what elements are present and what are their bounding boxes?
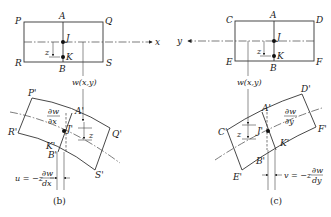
- deflection-label-c: w(x,y): [237, 78, 262, 87]
- svg-text:v = −z: v = −z: [284, 171, 312, 180]
- corner-f: F: [315, 57, 323, 67]
- corner-c-prime: C': [218, 127, 227, 137]
- caption-c: (c): [270, 196, 282, 206]
- corner-r-prime: R': [7, 127, 17, 137]
- point-a-label-c: A: [269, 10, 277, 20]
- corner-e: E: [225, 57, 233, 67]
- svg-text:dy: dy: [312, 176, 322, 185]
- deformed-bottom-edge-c: [242, 127, 316, 170]
- svg-text:∂w: ∂w: [48, 107, 59, 116]
- point-k-prime-label-c: K': [279, 138, 289, 148]
- point-a-label: A: [58, 11, 66, 21]
- corner-s: S: [106, 58, 112, 68]
- svg-text:∂w: ∂w: [312, 166, 323, 175]
- z-label-c: z: [256, 47, 262, 56]
- deformed-midplane: [10, 112, 120, 163]
- point-k-label-c: K: [276, 51, 285, 61]
- point-a-prime-label-c: A': [261, 103, 271, 113]
- point-k-c: [272, 54, 276, 58]
- caption-b: (b): [53, 196, 66, 206]
- point-a-prime-label: A': [74, 106, 84, 116]
- corner-p: P: [14, 16, 22, 26]
- svg-text:∂x: ∂x: [48, 117, 57, 126]
- corner-q: Q: [105, 16, 113, 26]
- corner-f-prime: F': [317, 124, 327, 134]
- point-b-label: B: [58, 64, 66, 74]
- svg-text:u = −z: u = −z: [15, 174, 44, 183]
- point-j-prime-label: J': [65, 124, 73, 134]
- z-label: z: [44, 48, 50, 57]
- deflection-label: w(x,y): [72, 78, 97, 87]
- point-j-prime: [62, 129, 66, 133]
- point-b-prime-label: B': [47, 150, 57, 160]
- x-axis-label: x: [155, 37, 160, 47]
- point-k-label: K: [65, 52, 74, 62]
- corner-d-prime: D': [300, 84, 311, 94]
- point-j-c: [272, 39, 276, 43]
- point-j-label-c: J: [275, 32, 282, 42]
- displacement-v-label: v = −z ∂w dy: [284, 166, 323, 185]
- plate-bending-diagram: x z P Q R S A B J K w(x,y) z: [0, 0, 331, 217]
- corner-q-prime: Q': [112, 129, 122, 139]
- corner-s-prime: S': [95, 170, 104, 180]
- slope-fraction-dw-dy: ∂w ∂y: [284, 107, 297, 126]
- svg-text:∂y: ∂y: [285, 117, 294, 126]
- point-j-label: J: [64, 33, 71, 43]
- svg-text:∂w: ∂w: [42, 169, 53, 178]
- point-b-label-c: B: [269, 63, 277, 73]
- point-j-prime-label-c: J': [255, 126, 263, 136]
- point-k: [61, 55, 65, 59]
- corner-d: D: [315, 15, 323, 25]
- y-axis-label: y: [176, 36, 183, 46]
- z-label-deformed-c: z: [236, 130, 242, 139]
- corner-r: R: [14, 58, 22, 68]
- point-b-prime-label-c: B': [255, 156, 265, 166]
- svg-text:dx: dx: [42, 179, 52, 188]
- corner-c: C: [226, 15, 233, 25]
- panel-b: x z P Q R S A B J K w(x,y) z: [7, 11, 160, 206]
- displacement-u-label: u = −z ∂w dx: [15, 169, 54, 188]
- z-label-deformed: z: [88, 131, 94, 140]
- corner-e-prime: E': [232, 172, 242, 182]
- point-j: [61, 40, 65, 44]
- deformed-right-edge: [95, 128, 110, 170]
- panel-c: y z C D E F A B J K w(x,y) z C' D' E' F'…: [176, 10, 327, 206]
- corner-p-prime: P': [27, 88, 37, 98]
- svg-text:∂w: ∂w: [285, 107, 296, 116]
- slope-fraction-dw-dx: ∂w ∂x: [47, 107, 60, 126]
- point-j-prime-c: [266, 129, 270, 133]
